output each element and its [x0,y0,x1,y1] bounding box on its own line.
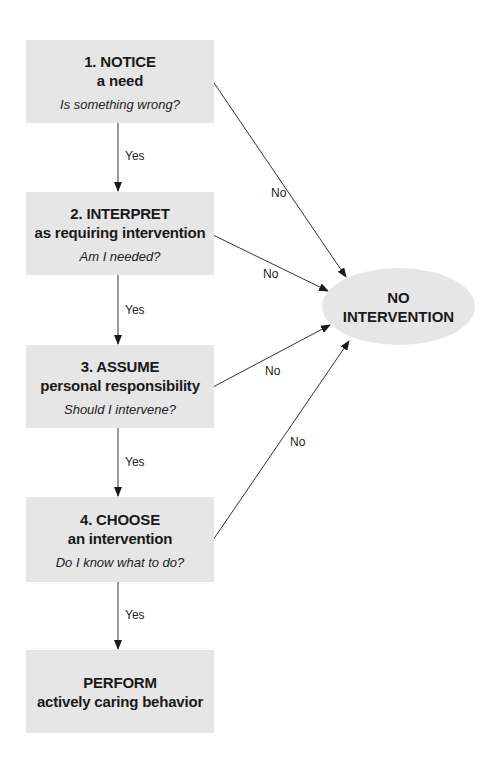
yes-label: Yes [125,149,145,163]
no-label: No [263,267,278,281]
step-subtitle: as requiring intervention [26,223,214,242]
no-intervention-line2: INTERVENTION [322,307,475,326]
step-subtitle: an intervention [26,529,214,548]
no-label: No [290,435,305,449]
step-question: Should I intervene? [26,402,214,417]
step-title: 4. CHOOSE [26,510,214,529]
yes-label: Yes [125,303,145,317]
step-choose: 4. CHOOSE an intervention Do I know what… [26,497,214,582]
no-intervention-line1: NO [322,288,475,307]
step-interpret: 2. INTERPRET as requiring intervention A… [26,192,214,275]
step-question: Do I know what to do? [26,555,214,570]
step-title: 2. INTERPRET [26,204,214,223]
final-subtitle: actively caring behavior [26,692,214,711]
step-assume: 3. ASSUME personal responsibility Should… [26,345,214,428]
yes-label: Yes [125,608,145,622]
no-intervention-node: NO INTERVENTION [322,268,475,345]
no-label: No [271,186,286,200]
no-arrow-1 [212,80,346,277]
step-perform: PERFORM actively caring behavior [26,650,214,733]
step-subtitle: a need [26,71,214,90]
final-title: PERFORM [26,673,214,692]
yes-label: Yes [125,455,145,469]
no-arrow-2 [213,235,328,291]
step-title: 1. NOTICE [26,52,214,71]
no-label: No [265,364,280,378]
step-question: Am I needed? [26,249,214,264]
step-notice: 1. NOTICE a need Is something wrong? [26,40,214,123]
step-subtitle: personal responsibility [26,376,214,395]
no-arrow-4 [213,341,349,540]
step-title: 3. ASSUME [26,357,214,376]
step-question: Is something wrong? [26,97,214,112]
